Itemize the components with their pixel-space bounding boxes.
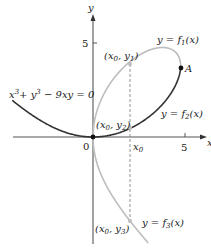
x-axis-label: x xyxy=(207,137,211,148)
folium-left-branch xyxy=(12,100,92,137)
label-x0-y2: (x0, y2) xyxy=(96,119,131,132)
y-axis-arrow-icon xyxy=(91,14,96,21)
y-tick-label: 5 xyxy=(82,38,88,49)
y-axis-label: y xyxy=(87,2,94,13)
label-x0-y3: (x0, y3) xyxy=(95,223,130,236)
x-axis-arrow-icon xyxy=(200,135,207,140)
folium-diagram: y x 5 5 0 x0 x3+ y3 − 9xy = 0 y = f1(x) … xyxy=(0,0,211,251)
label-f3: y = f3(x) xyxy=(141,217,184,230)
origin-label: 0 xyxy=(83,141,89,152)
label-A: A xyxy=(184,63,192,74)
label-f1: y = f1(x) xyxy=(156,34,199,47)
label-x0-y1: (x0, y1) xyxy=(104,50,139,63)
label-f2: y = f2(x) xyxy=(160,108,203,121)
x-tick-label: 5 xyxy=(181,142,187,153)
equation-label: x3+ y3 − 9xy = 0 xyxy=(9,88,95,100)
point-A xyxy=(179,66,184,71)
x0-label: x0 xyxy=(133,141,144,154)
origin-point xyxy=(91,135,96,140)
